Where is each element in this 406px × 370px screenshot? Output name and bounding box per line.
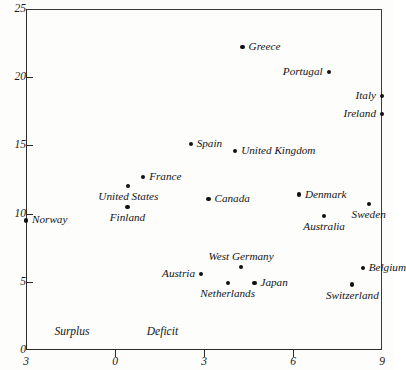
y-tick-mark bbox=[26, 77, 33, 78]
data-point[interactable] bbox=[24, 218, 28, 222]
x-tick-label: 9 bbox=[367, 355, 397, 367]
data-point-label: Switzerland bbox=[326, 290, 379, 301]
data-point-label: Netherlands bbox=[200, 288, 255, 299]
y-tick-label: 25 bbox=[0, 3, 26, 15]
data-point[interactable] bbox=[380, 112, 384, 116]
data-point[interactable] bbox=[125, 205, 129, 209]
data-point-label: Sweden bbox=[352, 209, 386, 220]
y-tick-label: 15 bbox=[0, 139, 26, 151]
x-tick-label: 0 bbox=[100, 355, 130, 367]
data-point[interactable] bbox=[206, 197, 210, 201]
x-tick-label: 3 bbox=[11, 355, 41, 367]
x-tick-label: 3 bbox=[189, 355, 219, 367]
data-point[interactable] bbox=[189, 142, 193, 146]
data-point-label: United States bbox=[98, 191, 158, 202]
y-tick-mark bbox=[26, 282, 33, 283]
data-point[interactable] bbox=[239, 265, 243, 269]
y-tick-label: 0 bbox=[0, 344, 26, 356]
data-point[interactable] bbox=[380, 94, 384, 98]
data-point-label: Austria bbox=[162, 268, 195, 279]
data-point[interactable] bbox=[252, 281, 256, 285]
x-tick-label: 6 bbox=[278, 355, 308, 367]
data-point-label: West Germany bbox=[209, 251, 274, 262]
data-point-label: Greece bbox=[249, 42, 281, 53]
data-point[interactable] bbox=[327, 70, 331, 74]
data-point[interactable] bbox=[367, 202, 371, 206]
y-tick-label: 20 bbox=[0, 71, 26, 83]
data-point[interactable] bbox=[240, 45, 244, 49]
y-tick-label: 5 bbox=[0, 276, 26, 288]
data-point-label: Australia bbox=[303, 221, 345, 232]
data-point[interactable] bbox=[226, 281, 230, 285]
data-point[interactable] bbox=[199, 272, 203, 276]
data-point[interactable] bbox=[361, 266, 365, 270]
region-annotation: Deficit bbox=[147, 327, 178, 339]
data-point[interactable] bbox=[297, 192, 301, 196]
data-point-label: Belgium bbox=[369, 263, 406, 274]
y-tick-label: 10 bbox=[0, 208, 26, 220]
data-point-label: Canada bbox=[214, 193, 249, 204]
data-point-label: Japan bbox=[260, 278, 287, 289]
y-tick-mark bbox=[26, 145, 33, 146]
data-point-label: Italy bbox=[355, 91, 376, 102]
data-point-label: United Kingdom bbox=[241, 145, 315, 156]
data-point-label: Ireland bbox=[343, 108, 376, 119]
data-point-label: France bbox=[149, 171, 181, 182]
data-point-label: Denmark bbox=[305, 189, 347, 200]
data-point-label: Norway bbox=[32, 215, 67, 226]
data-point-label: Portugal bbox=[283, 66, 323, 77]
region-annotation: Surplus bbox=[54, 327, 89, 339]
data-point-label: Finland bbox=[110, 212, 145, 223]
data-point-label: Spain bbox=[197, 138, 222, 149]
